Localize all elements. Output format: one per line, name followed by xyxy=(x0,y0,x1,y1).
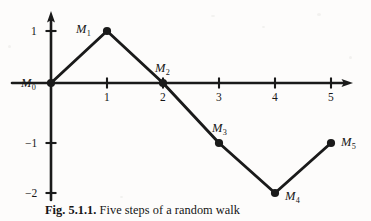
data-point-m1 xyxy=(103,27,111,35)
point-label-m2-sub: 2 xyxy=(166,68,170,77)
figure-caption: Fig. 5.1.1. Five steps of a random walk xyxy=(45,203,240,218)
point-label-m3: M3 xyxy=(212,122,227,135)
point-label-m5-sub: 5 xyxy=(352,142,356,151)
random-walk-plot xyxy=(0,0,371,205)
point-label-m1-sub: 1 xyxy=(87,29,91,38)
x-tick-label-1: 1 xyxy=(104,92,110,104)
point-label-m4: M4 xyxy=(285,190,300,203)
x-tick-label-2: 2 xyxy=(160,92,166,104)
point-label-m0-base: M xyxy=(21,76,31,90)
point-label-m3-sub: 3 xyxy=(223,128,227,137)
figure-container: 1 2 3 4 5 1 −1 −2 M0 M1 M2 M3 M4 M5 Fig.… xyxy=(0,0,371,221)
point-label-m5-base: M xyxy=(341,135,351,149)
data-point-m4 xyxy=(271,189,279,197)
data-point-m5 xyxy=(327,139,335,147)
point-label-m0: M0 xyxy=(21,77,36,90)
point-label-m3-base: M xyxy=(212,121,222,135)
y-tick-label-neg2: −2 xyxy=(25,188,37,200)
point-label-m2: M2 xyxy=(155,62,170,75)
point-label-m4-base: M xyxy=(285,189,295,203)
data-point-m2 xyxy=(159,79,167,87)
y-tick-label-neg1: −1 xyxy=(25,138,37,150)
caption-figure-number: Fig. 5.1.1. xyxy=(45,203,96,217)
caption-title: Five steps of a random walk xyxy=(100,203,240,217)
random-walk-path xyxy=(51,31,331,193)
x-tick-label-3: 3 xyxy=(216,92,222,104)
point-label-m0-sub: 0 xyxy=(32,83,36,92)
point-label-m2-base: M xyxy=(155,61,165,75)
point-label-m5: M5 xyxy=(341,136,356,149)
data-point-m3 xyxy=(215,139,223,147)
point-label-m1: M1 xyxy=(76,23,91,36)
y-tick-label-pos1: 1 xyxy=(31,26,37,38)
point-label-m1-base: M xyxy=(76,22,86,36)
x-tick-label-5: 5 xyxy=(328,92,334,104)
point-label-m4-sub: 4 xyxy=(296,196,300,205)
data-point-m0 xyxy=(47,79,55,87)
x-tick-label-4: 4 xyxy=(272,92,278,104)
